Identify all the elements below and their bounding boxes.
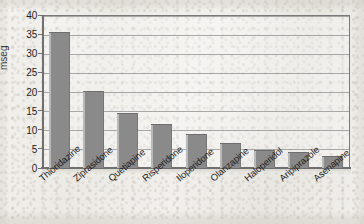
- y-tick-mark: [38, 110, 42, 111]
- gridline: [43, 35, 349, 36]
- y-tick-label: 25: [26, 67, 37, 78]
- y-tick-label: 40: [26, 10, 37, 21]
- y-tick-mark: [38, 34, 42, 35]
- y-tick-label: 15: [26, 105, 37, 116]
- y-tick-label: 0: [32, 163, 37, 174]
- y-tick-mark: [38, 148, 42, 149]
- y-axis-line: [42, 15, 44, 169]
- gridline: [43, 73, 349, 74]
- y-tick-mark: [38, 168, 42, 169]
- y-tick-mark: [38, 91, 42, 92]
- y-axis-label: mseg: [0, 46, 9, 70]
- y-tick-label: 5: [32, 143, 37, 154]
- bar: [49, 32, 70, 168]
- y-tick-mark: [38, 72, 42, 73]
- bar-chart: mseg 0510152025303540 ThioridazineZipras…: [0, 0, 364, 224]
- gridline: [43, 16, 349, 17]
- y-tick-label: 20: [26, 86, 37, 97]
- y-tick-mark: [38, 53, 42, 54]
- y-tick-mark: [38, 129, 42, 130]
- y-tick-label: 10: [26, 124, 37, 135]
- y-tick-label: 30: [26, 48, 37, 59]
- y-tick-mark: [38, 15, 42, 16]
- y-tick-label: 35: [26, 29, 37, 40]
- gridline: [43, 54, 349, 55]
